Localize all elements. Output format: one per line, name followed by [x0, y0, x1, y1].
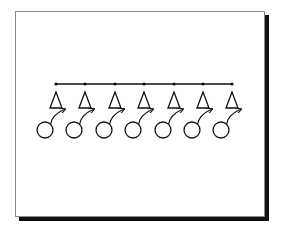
curved-arrow-icon	[110, 109, 124, 124]
junction-dot	[172, 82, 175, 85]
bus-diagram	[0, 0, 283, 233]
triangle-icon	[197, 92, 209, 108]
triangle-icon	[50, 92, 62, 108]
junction-dot	[201, 82, 204, 85]
curved-arrow-icon	[227, 109, 241, 124]
triangle-icon	[109, 92, 121, 108]
curved-arrow-icon	[198, 109, 212, 124]
unit	[66, 82, 94, 138]
junction-dot	[83, 82, 86, 85]
junction-dot	[230, 82, 233, 85]
junction-dot	[113, 82, 116, 85]
junction-dot	[142, 82, 145, 85]
unit	[96, 82, 124, 138]
triangle-icon	[226, 92, 238, 108]
curved-arrow-icon	[80, 109, 94, 124]
curved-arrow-icon	[169, 109, 183, 124]
unit	[184, 82, 212, 138]
units	[37, 82, 241, 138]
triangle-icon	[138, 92, 150, 108]
unit	[155, 82, 183, 138]
unit	[213, 82, 241, 138]
curved-arrow-icon	[139, 109, 153, 124]
unit	[125, 82, 153, 138]
junction-dot	[54, 82, 57, 85]
curved-arrow-icon	[51, 109, 65, 124]
triangle-icon	[79, 92, 91, 108]
triangle-icon	[168, 92, 180, 108]
unit	[37, 82, 65, 138]
